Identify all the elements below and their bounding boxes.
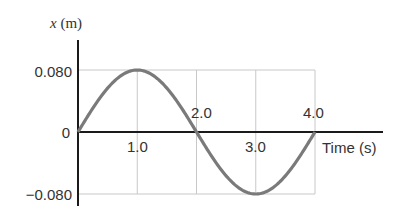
- x-tick-label-2: 2.0: [191, 105, 212, 120]
- y-axis-variable: x: [50, 15, 57, 31]
- y-tick-label-zero: 0: [62, 125, 70, 140]
- x-tick-label-4: 4.0: [303, 105, 324, 120]
- x-tick-label-3: 3.0: [245, 139, 266, 154]
- x-tick-label-1: 1.0: [127, 139, 148, 154]
- x-axis-title: Time (s): [322, 140, 376, 155]
- y-axis-unit: (m): [60, 15, 82, 31]
- y-axis-title: x (m): [50, 16, 82, 31]
- y-tick-label-max: 0.080: [34, 64, 72, 79]
- y-tick-label-min: −0.080: [26, 187, 72, 202]
